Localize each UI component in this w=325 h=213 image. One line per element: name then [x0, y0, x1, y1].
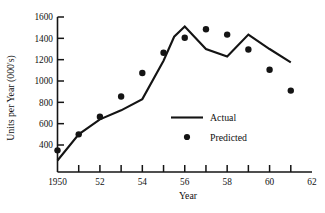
y-axis-title: Units per Year (000's) — [5, 55, 17, 141]
x-axis-tick-label: 60 — [265, 177, 275, 187]
x-axis-tick-label: 52 — [95, 177, 105, 187]
y-axis-tick-label: 800 — [39, 98, 53, 108]
predicted-data-point — [288, 87, 294, 93]
predicted-data-point — [160, 50, 166, 56]
y-axis-tick-label: 1400 — [34, 34, 53, 44]
x-axis-title: Year — [179, 190, 198, 201]
y-axis-tick-label: 1000 — [34, 76, 53, 86]
chart-container: 1600140012001000800600400 19505254565860… — [0, 0, 325, 213]
predicted-data-point — [182, 35, 188, 41]
x-axis-tick-label: 54 — [138, 177, 148, 187]
x-axis-tick-label: 56 — [180, 177, 190, 187]
predicted-data-point — [139, 70, 145, 76]
y-axis-tick-label: 1200 — [34, 55, 53, 65]
predicted-data-point — [118, 93, 124, 99]
x-axis-tick-label: 62 — [307, 177, 317, 187]
legend-actual-label: Actual — [210, 112, 236, 123]
predicted-data-point — [76, 131, 82, 137]
predicted-data-point — [266, 67, 272, 73]
x-axis-tick-label: 1950 — [48, 177, 67, 187]
predicted-data-point — [224, 31, 230, 37]
legend-predicted-dot-swatch — [184, 134, 190, 140]
y-axis-tick-label: 400 — [39, 140, 53, 150]
line-chart: 1600140012001000800600400 19505254565860… — [0, 0, 325, 213]
y-axis-tick-label: 600 — [39, 119, 53, 129]
predicted-data-point — [54, 147, 60, 153]
y-axis-tick-label: 1600 — [34, 12, 53, 22]
predicted-data-point — [97, 114, 103, 120]
legend-predicted-label: Predicted — [210, 132, 247, 143]
predicted-data-point — [203, 26, 209, 32]
x-axis-tick-label: 58 — [223, 177, 233, 187]
predicted-data-point — [245, 46, 251, 52]
